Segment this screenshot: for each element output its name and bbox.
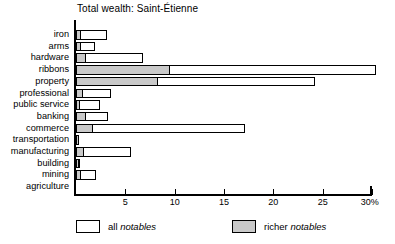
category-label-banking: banking (37, 111, 69, 121)
category-label-agriculture: agriculture (26, 181, 69, 191)
bar-richer-notables-mining (76, 170, 81, 180)
category-label-building: building (37, 158, 69, 168)
category-label-property: property (35, 76, 69, 86)
category-label-mining: mining (42, 169, 69, 179)
category-label-hardware: hardware (31, 52, 69, 62)
category-label-manufacturing: manufacturing (11, 146, 69, 156)
bar-row (76, 53, 372, 63)
bar-row (76, 159, 372, 169)
bar-row (76, 124, 372, 134)
bar-all-notables-manufacturing (76, 147, 131, 157)
x-axis-tick-label: 25 (318, 197, 328, 208)
category-label-public-service: public service (13, 99, 69, 109)
legend-label-all-notables: all notables (108, 221, 156, 233)
category-label-professional: professional (19, 88, 69, 98)
bar-richer-notables-professional (76, 89, 83, 99)
legend-item-richer-notables: richer notables (232, 220, 326, 233)
bar-richer-notables-hardware (76, 53, 86, 63)
bar-row (76, 100, 372, 110)
bar-richer-notables-ribbons (76, 65, 170, 75)
bar-richer-notables-commerce (76, 124, 93, 134)
category-label-commerce: commerce (26, 123, 69, 133)
bar-richer-notables-public-service (76, 100, 80, 110)
bar-row (76, 170, 372, 180)
bar-row (76, 135, 372, 145)
legend-swatch-all-notables (76, 220, 100, 233)
bar-all-notables-hardware (76, 53, 143, 63)
bar-richer-notables-transportation (76, 135, 79, 145)
bar-row (76, 112, 372, 122)
x-axis-tick (372, 189, 373, 195)
x-axis-tick-label: 5 (123, 197, 128, 208)
bar-richer-notables-banking (76, 112, 86, 122)
bar-richer-notables-iron (76, 30, 81, 40)
bar-richer-notables-manufacturing (76, 147, 84, 157)
category-label-transportation: transportation (13, 134, 69, 144)
bar-row (76, 182, 372, 192)
category-label-ribbons: ribbons (39, 64, 69, 74)
chart-legend: all notablesricher notables (0, 220, 395, 240)
category-label-iron: iron (54, 29, 69, 39)
x-axis-tick-label: 20 (268, 197, 278, 208)
x-axis-tick-label: 15 (219, 197, 229, 208)
x-axis-tick-label: 30% (361, 197, 379, 208)
legend-item-all-notables: all notables (76, 220, 156, 233)
bar-all-notables-commerce (76, 124, 245, 134)
plot-area (76, 30, 372, 195)
category-label-arms: arms (49, 41, 69, 51)
legend-swatch-richer-notables (232, 220, 256, 233)
bar-richer-notables-property (76, 77, 158, 87)
bar-row (76, 77, 372, 87)
bar-row (76, 30, 372, 40)
bar-chart: Total wealth: Saint-Étienne 51015202530%… (0, 0, 395, 244)
bar-row (76, 89, 372, 99)
bar-richer-notables-building (76, 159, 79, 169)
bar-row (76, 42, 372, 52)
bar-row (76, 65, 372, 75)
x-axis-tick-label: 10 (170, 197, 180, 208)
bar-richer-notables-arms (76, 42, 81, 52)
bar-row (76, 147, 372, 157)
legend-label-richer-notables: richer notables (264, 221, 326, 233)
chart-title: Total wealth: Saint-Étienne (77, 3, 198, 15)
